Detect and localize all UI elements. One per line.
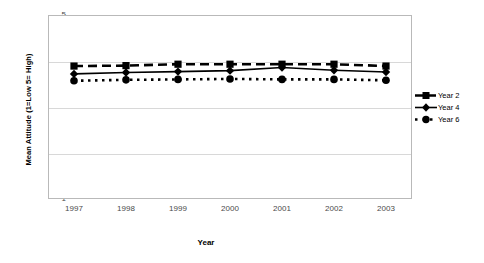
x-axis-title: Year: [0, 238, 412, 247]
data-point: [122, 76, 130, 84]
series-layer: [48, 15, 412, 199]
legend-label: Year 4: [438, 102, 459, 113]
data-point: [382, 77, 390, 85]
legend-item-year-4[interactable]: Year 4: [414, 102, 484, 113]
series-year-6: [70, 75, 390, 84]
legend-label: Year 6: [438, 114, 459, 125]
legend-item-year-2[interactable]: Year 2: [414, 90, 484, 101]
x-axis-tick-label: 2003: [356, 205, 416, 213]
data-point: [330, 76, 338, 84]
y-axis-title: Mean Attitude (1=Low 5= High): [24, 20, 33, 200]
data-point: [122, 62, 129, 69]
data-point: [174, 67, 182, 75]
x-axis-tick-label: 2002: [304, 205, 364, 213]
legend-key-square-icon: [414, 90, 438, 101]
data-point: [174, 76, 182, 84]
x-axis-tick-label: 1999: [148, 205, 208, 213]
data-point: [70, 77, 78, 85]
chart-figure: Mean Attitude (1=Low 5= High) 12345 1997…: [0, 0, 484, 263]
data-point: [278, 76, 286, 84]
data-point: [70, 62, 77, 69]
data-point: [70, 70, 78, 78]
x-axis-tick-label: 2001: [252, 205, 312, 213]
legend-key-circle-icon: [414, 114, 438, 125]
x-axis-tick-label: 1997: [44, 205, 104, 213]
legend-item-year-6[interactable]: Year 6: [414, 114, 484, 125]
x-axis-tick-label: 2000: [200, 205, 260, 213]
data-point: [226, 75, 234, 83]
legend-label: Year 2: [438, 90, 459, 101]
chart-legend: Year 2Year 4Year 6: [414, 90, 484, 126]
data-point: [122, 68, 130, 76]
data-point: [174, 61, 181, 68]
x-axis-tick-label: 1998: [96, 205, 156, 213]
legend-key-diamond-icon: [414, 102, 438, 113]
